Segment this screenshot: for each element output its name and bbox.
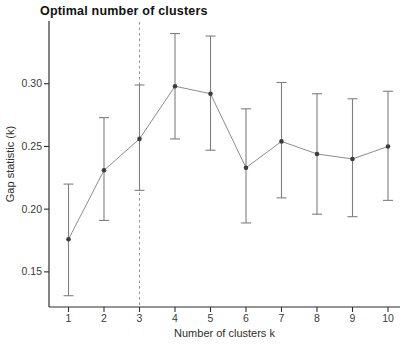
x-tick-label: 8 [314, 312, 320, 324]
data-point [315, 152, 320, 157]
x-tick-label: 6 [243, 312, 249, 324]
x-axis-title: Number of clusters k [49, 327, 400, 339]
x-tick-label: 4 [172, 312, 178, 324]
y-tick-label: 0.20 [22, 203, 43, 215]
x-tick-label: 3 [137, 312, 143, 324]
x-tick-label: 7 [279, 312, 285, 324]
x-tick-label: 1 [66, 312, 72, 324]
x-tick-label: 9 [350, 312, 356, 324]
y-tick-label: 0.15 [22, 265, 43, 277]
x-tick-label: 10 [382, 312, 394, 324]
y-tick-label: 0.30 [22, 77, 43, 89]
data-point [208, 91, 213, 96]
data-point [66, 237, 71, 242]
data-point [350, 157, 355, 162]
x-tick-label: 5 [208, 312, 214, 324]
data-point [173, 84, 178, 89]
y-tick-label: 0.25 [22, 140, 43, 152]
gap-statistic-chart: 0.150.200.250.3012345678910 [0, 0, 406, 349]
data-point [386, 144, 391, 149]
x-tick-label: 2 [101, 312, 107, 324]
data-point [102, 168, 107, 173]
data-point [137, 137, 142, 142]
series-line [69, 86, 389, 239]
data-point [279, 139, 284, 144]
gap-statistic-figure: Optimal number of clusters Gap statistic… [0, 0, 406, 349]
data-point [244, 165, 249, 170]
